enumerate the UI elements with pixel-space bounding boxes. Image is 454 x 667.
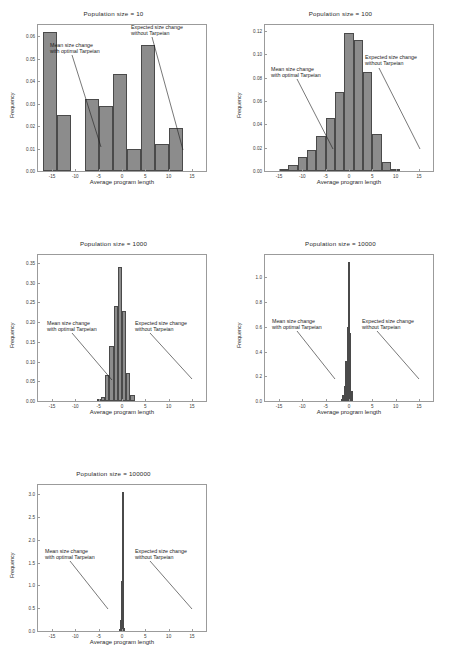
x-axis-tick xyxy=(145,629,146,632)
x-axis-tick-label: 5 xyxy=(371,404,374,409)
x-axis-tick xyxy=(279,169,280,172)
y-axis-tick-label: 0.35 xyxy=(13,260,35,265)
x-axis-tick-label: 0 xyxy=(121,174,124,179)
x-axis-label: Average program length xyxy=(264,409,434,415)
x-axis-tick xyxy=(192,399,193,402)
histogram-bar xyxy=(155,144,169,171)
x-axis-tick-label: 15 xyxy=(189,634,194,639)
y-axis-tick-label: 0.04 xyxy=(13,79,35,84)
x-axis-tick xyxy=(302,169,303,172)
annotation-expected-size-change: Expected size change without Tarpeian xyxy=(135,320,187,333)
y-axis-tick xyxy=(264,171,267,172)
x-axis-tick xyxy=(372,399,373,402)
y-axis-tick xyxy=(37,59,40,60)
y-axis-label: Frequency xyxy=(9,323,15,348)
histogram-bar xyxy=(335,92,344,171)
x-axis-tick-label: -5 xyxy=(324,404,328,409)
x-axis-tick-label: 0 xyxy=(348,174,351,179)
y-axis-tick xyxy=(264,148,267,149)
x-axis-tick-label: 5 xyxy=(144,404,147,409)
x-axis-tick-label: 5 xyxy=(144,634,147,639)
chart-panel-pop1000: Population size = 10000.000.050.100.150.… xyxy=(0,236,227,436)
histogram-bar xyxy=(130,395,134,401)
x-axis-tick-label: -5 xyxy=(324,174,328,179)
histogram-bar xyxy=(344,33,353,171)
histogram-bar xyxy=(169,128,183,171)
y-axis-label: Frequency xyxy=(236,323,242,348)
annotation-mean-size-change: Mean size change with optimal Tarpeian xyxy=(271,66,321,79)
y-axis-tick xyxy=(37,283,40,284)
x-axis-tick-label: 10 xyxy=(166,404,171,409)
y-axis-tick-label: 0.2 xyxy=(240,374,262,379)
y-axis-tick xyxy=(264,352,267,353)
histogram-bar xyxy=(127,149,141,171)
x-axis-tick xyxy=(99,169,100,172)
y-axis-tick xyxy=(37,585,40,586)
y-axis-tick-label: 0.00 xyxy=(13,399,35,404)
annotation-mean-size-change: Mean size change with optimal Tarpeian xyxy=(50,42,100,55)
x-axis-tick xyxy=(169,399,170,402)
y-axis-tick xyxy=(37,171,40,172)
y-axis-tick xyxy=(264,376,267,377)
x-axis-tick xyxy=(52,399,53,402)
x-axis-tick-label: 0 xyxy=(121,404,124,409)
histogram-bar xyxy=(113,74,127,171)
x-axis-tick xyxy=(99,629,100,632)
x-axis-tick xyxy=(122,399,123,402)
annotation-expected-size-change: Expected size change without Tarpeian xyxy=(131,24,183,37)
y-axis-tick-label: 0.06 xyxy=(13,34,35,39)
x-axis-tick xyxy=(169,169,170,172)
y-axis-tick-label: 1.0 xyxy=(13,583,35,588)
x-axis-tick xyxy=(122,169,123,172)
y-axis-tick xyxy=(37,302,40,303)
x-axis-tick-label: 15 xyxy=(189,174,194,179)
x-axis-tick xyxy=(396,399,397,402)
x-axis-tick xyxy=(52,169,53,172)
x-axis-tick-label: -15 xyxy=(49,634,56,639)
y-axis-tick-label: 0.02 xyxy=(240,145,262,150)
y-axis-tick xyxy=(37,263,40,264)
annotation-mean-size-change: Mean size change with optimal Tarpeian xyxy=(272,318,322,331)
y-axis-tick xyxy=(37,563,40,564)
x-axis-tick-label: 10 xyxy=(393,174,398,179)
x-axis-tick xyxy=(75,169,76,172)
y-axis-tick xyxy=(37,540,40,541)
y-axis-tick xyxy=(37,494,40,495)
x-axis-tick xyxy=(419,399,420,402)
y-axis-tick-label: 0.05 xyxy=(13,56,35,61)
x-axis-tick-label: -15 xyxy=(276,404,283,409)
histogram-bar xyxy=(57,115,71,171)
x-axis-tick-label: 10 xyxy=(393,404,398,409)
y-axis-tick xyxy=(264,101,267,102)
y-axis-tick-label: 0.0 xyxy=(240,399,262,404)
y-axis-tick-label: 0.8 xyxy=(240,300,262,305)
y-axis-tick-label: 0.4 xyxy=(240,349,262,354)
x-axis-tick xyxy=(349,169,350,172)
x-axis-tick-label: 10 xyxy=(166,174,171,179)
y-axis-tick-label: 0.01 xyxy=(13,146,35,151)
x-axis-tick xyxy=(122,629,123,632)
y-axis-tick xyxy=(37,517,40,518)
x-axis-tick-label: 0 xyxy=(348,404,351,409)
y-axis-tick-label: 0.0 xyxy=(13,629,35,634)
histogram-bar xyxy=(351,391,353,401)
x-axis-label: Average program length xyxy=(37,639,207,645)
x-axis-tick-label: 0 xyxy=(121,634,124,639)
chart-title: Population size = 1000 xyxy=(0,240,227,247)
y-axis-tick xyxy=(37,362,40,363)
histogram-bar xyxy=(85,99,99,171)
x-axis-tick xyxy=(372,169,373,172)
y-axis-tick xyxy=(264,78,267,79)
x-axis-tick-label: 5 xyxy=(371,174,374,179)
x-axis-tick-label: -10 xyxy=(299,174,306,179)
histogram-bar xyxy=(316,136,325,171)
x-axis-tick-label: 5 xyxy=(144,174,147,179)
y-axis-tick xyxy=(264,327,267,328)
x-axis-label: Average program length xyxy=(264,179,434,185)
y-axis-tick-label: 0.25 xyxy=(13,300,35,305)
chart-panel-pop10: Population size = 100.000.010.020.030.04… xyxy=(0,6,227,206)
x-axis-tick xyxy=(145,399,146,402)
y-axis-tick xyxy=(264,401,267,402)
x-axis-tick xyxy=(302,399,303,402)
y-axis-tick-label: 0.00 xyxy=(240,169,262,174)
